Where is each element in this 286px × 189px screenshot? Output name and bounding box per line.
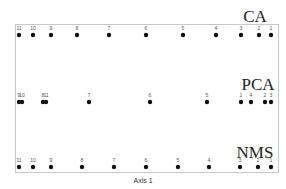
data-point [44,100,48,104]
data-point [263,100,267,104]
data-rows: 111098765432191081176514231110987654321 [16,25,273,169]
data-point [269,33,273,37]
point-label: 5 [182,25,185,31]
point-label: 1 [270,157,273,163]
point-label: 2 [257,157,260,163]
data-point [75,33,79,37]
point-label: 9 [50,25,53,31]
point-label: 3 [239,157,242,163]
data-point [205,100,209,104]
point-label: 3 [240,25,243,31]
data-point [17,33,21,37]
series-nms: 1110987654321 [16,157,273,169]
point-label: 10 [19,92,25,98]
data-point [214,33,218,37]
point-label: 6 [145,157,148,163]
point-label: 2 [258,25,261,31]
data-point [148,100,152,104]
point-label: 1 [270,25,273,31]
point-label: 10 [30,157,36,163]
data-point [144,33,148,37]
point-label: 3 [270,92,273,98]
ordination-chart: CA PCA NMS 11109876543219108117651423111… [0,0,286,189]
data-point [257,33,261,37]
data-point [112,165,116,169]
data-point [239,33,243,37]
x-axis-label: Axis 1 [133,177,152,184]
point-label: 8 [81,157,84,163]
data-point [20,100,24,104]
data-point [49,33,53,37]
point-label: 5 [177,157,180,163]
data-point [17,165,21,169]
data-point [176,165,180,169]
point-label: 10 [30,25,36,31]
point-label: 4 [215,25,218,31]
point-label: 1 [240,92,243,98]
point-label: 9 [50,157,53,163]
data-point [239,100,243,104]
point-label: 11 [16,25,21,31]
data-point [49,165,53,169]
point-label: 7 [113,157,116,163]
point-label: 11 [16,157,21,163]
data-point [207,165,211,169]
point-label: 6 [149,92,152,98]
point-label: 8 [76,25,79,31]
series-ca: 1110987654321 [16,25,273,37]
point-label: 11 [43,92,48,98]
data-point [256,165,260,169]
point-label: 2 [264,92,267,98]
data-point [144,165,148,169]
data-point [181,33,185,37]
point-label: 4 [208,157,211,163]
point-label: 6 [145,25,148,31]
data-point [249,100,253,104]
series-pca: 9108117651423 [17,92,273,104]
data-point [107,33,111,37]
data-point [87,100,91,104]
point-label: 4 [250,92,253,98]
data-point [269,100,273,104]
data-point [238,165,242,169]
data-point [80,165,84,169]
point-label: 7 [88,92,91,98]
data-point [269,165,273,169]
row-title-nms: NMS [237,143,274,162]
data-point [31,165,35,169]
data-point [31,33,35,37]
point-label: 7 [108,25,111,31]
row-title-ca: CA [243,7,267,26]
point-label: 5 [206,92,209,98]
